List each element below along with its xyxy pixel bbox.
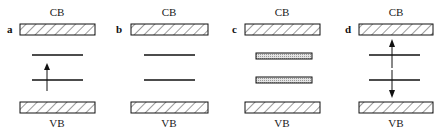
arrow-up-icon — [44, 63, 50, 70]
conduction-band — [131, 24, 208, 35]
panel-label: c — [232, 23, 237, 35]
valence-band — [359, 102, 433, 113]
vb-label: VB — [49, 117, 64, 129]
valence-band — [245, 102, 320, 113]
cb-label: CB — [162, 6, 177, 18]
lower-defect-band — [256, 77, 312, 83]
panel-c: c CB VB — [232, 6, 320, 129]
cb-label: CB — [50, 6, 65, 18]
arrow-down-icon — [389, 90, 395, 98]
vb-label: VB — [274, 117, 289, 129]
cb-label: CB — [275, 6, 290, 18]
panel-b: b CB VB — [116, 6, 208, 129]
arrow-up-icon — [389, 39, 395, 47]
panel-label: a — [7, 23, 13, 35]
vb-label: VB — [388, 117, 403, 129]
panel-label: b — [116, 23, 122, 35]
panel-d: d CB VB — [345, 6, 433, 129]
conduction-band — [245, 24, 320, 35]
vb-label: VB — [161, 117, 176, 129]
cb-label: CB — [389, 6, 404, 18]
band-diagram-figure: a CB VB b CB VB c CB VB d CB — [0, 0, 441, 136]
panel-a: a CB VB — [7, 6, 95, 129]
conduction-band — [20, 24, 95, 35]
panel-label: d — [345, 23, 351, 35]
valence-band — [20, 102, 95, 113]
conduction-band — [359, 24, 433, 35]
upper-defect-band — [256, 53, 312, 59]
valence-band — [131, 102, 208, 113]
